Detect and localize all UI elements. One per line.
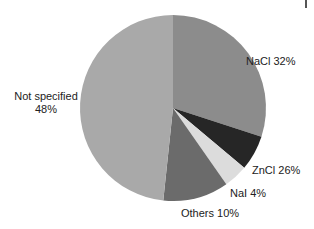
label-nacl: NaCl 32% xyxy=(246,55,296,68)
label-not-specified: Not specified 48% xyxy=(14,90,78,116)
label-others: Others 10% xyxy=(181,207,239,220)
label-nai: NaI 4% xyxy=(230,187,266,200)
label-not-specified-value: 48% xyxy=(14,103,78,116)
corner-mark xyxy=(305,0,307,8)
label-not-specified-name: Not specified xyxy=(14,90,78,103)
label-zncl: ZnCl 26% xyxy=(252,164,300,177)
pie-slice-not-specified xyxy=(80,15,173,200)
